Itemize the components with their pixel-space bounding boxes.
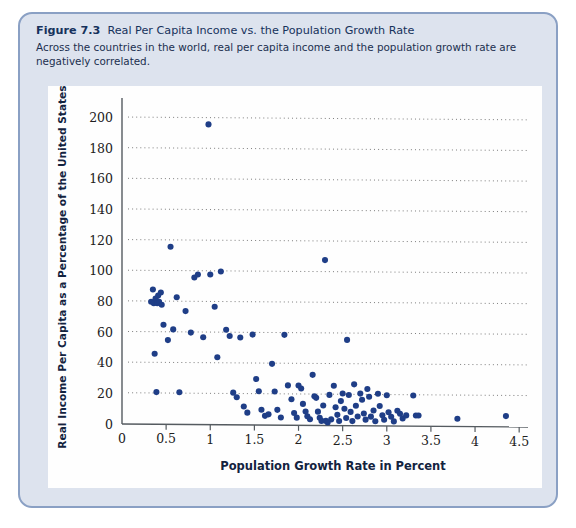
scatter-point <box>377 403 383 409</box>
scatter-point <box>357 391 363 397</box>
scatter-point <box>274 407 280 413</box>
scatter-point <box>288 396 294 402</box>
scatter-point <box>370 407 376 413</box>
scatter-point <box>258 407 264 413</box>
x-tick-label: 0.5 <box>156 431 176 446</box>
x-axis-title: Population Growth Rate in Percent <box>220 459 446 473</box>
x-tick-label: 4.5 <box>509 434 529 449</box>
y-axis-title: Real Income Per Capita as a Percentage o… <box>56 86 68 449</box>
x-tick-label: 4 <box>471 434 479 449</box>
y-tick-label: 180 <box>89 141 113 156</box>
scatter-point <box>153 389 159 395</box>
scatter-point <box>403 412 409 418</box>
scatter-point <box>503 413 509 419</box>
figure-number: Figure 7.3 <box>36 24 100 37</box>
scatter-point <box>281 332 287 338</box>
scatter-point <box>167 244 173 250</box>
scatter-point <box>343 415 349 421</box>
gridlines <box>128 117 528 396</box>
scatter-point <box>176 389 182 395</box>
scatter-point <box>188 330 194 336</box>
plot-panel: 020406080100120140160180200 00.511.522.5… <box>48 86 542 488</box>
scatter-point <box>310 372 316 378</box>
scatter-point <box>214 354 220 360</box>
y-tick-label: 140 <box>89 202 113 217</box>
scatter-point <box>336 418 342 424</box>
scatter-point <box>165 337 171 343</box>
scatter-point <box>278 414 284 420</box>
scatter-point <box>223 327 229 333</box>
scatter-point <box>333 404 339 410</box>
y-tick-label: 120 <box>89 233 113 248</box>
scatter-point <box>158 290 164 296</box>
scatter-point <box>375 391 381 397</box>
scatter-point <box>364 386 370 392</box>
scatter-point <box>152 351 158 357</box>
x-axis-ticks: 00.511.522.533.544.5 <box>118 424 529 449</box>
figure-title: Real Per Capita Income vs. the Populatio… <box>107 24 414 37</box>
scatter-point <box>340 390 346 396</box>
scatter-point <box>212 304 218 310</box>
scatter-point <box>269 361 275 367</box>
scatter-point <box>366 394 372 400</box>
scatter-point <box>237 335 243 341</box>
x-tick-label: 2.5 <box>333 433 353 448</box>
x-tick-label: 2 <box>295 432 303 447</box>
scatter-point <box>381 417 387 423</box>
scatter-point <box>285 382 291 388</box>
scatter-point <box>416 412 422 418</box>
figure-card: Figure 7.3 Real Per Capita Income vs. th… <box>18 12 558 508</box>
scatter-point <box>372 418 378 424</box>
scatter-point <box>205 121 211 127</box>
scatter-point <box>182 308 188 314</box>
scatter-point <box>331 383 337 389</box>
figure-title-line: Figure 7.3 Real Per Capita Income vs. th… <box>36 24 542 38</box>
scatter-point <box>272 388 278 394</box>
scatter-point <box>313 395 319 401</box>
scatter-point <box>307 416 313 422</box>
scatter-point <box>355 414 361 420</box>
scatter-point <box>207 271 213 277</box>
scatter-point <box>300 401 306 407</box>
scatter-point <box>234 394 240 400</box>
y-tick-label: 60 <box>97 325 113 340</box>
scatter-point <box>384 392 390 398</box>
y-tick-label: 0 <box>105 417 113 432</box>
scatter-point <box>253 376 259 382</box>
scatter-point <box>334 412 340 418</box>
scatter-point <box>338 398 344 404</box>
scatter-point <box>244 410 250 416</box>
x-axis-line <box>122 424 528 427</box>
scatter-point <box>346 392 352 398</box>
y-tick-label: 40 <box>97 355 113 370</box>
y-tick-label: 160 <box>89 171 113 186</box>
scatter-point <box>315 409 321 415</box>
scatter-point <box>363 417 369 423</box>
y-tick-label: 80 <box>97 294 113 309</box>
scatter-point <box>256 388 262 394</box>
scatter-point <box>454 416 460 422</box>
scatter-point <box>326 392 332 398</box>
scatter-point <box>150 286 156 292</box>
scatter-point <box>320 403 326 409</box>
x-tick-label: 3 <box>383 433 391 448</box>
x-tick-label: 1.5 <box>244 432 264 447</box>
scatter-point <box>159 302 165 308</box>
scatter-point <box>250 332 256 338</box>
scatter-point <box>170 326 176 332</box>
scatter-point <box>227 333 233 339</box>
scatter-point <box>361 410 367 416</box>
scatter-point <box>328 416 334 422</box>
scatter-point <box>294 415 300 421</box>
x-tick-label: 3.5 <box>421 433 441 448</box>
scatter-point <box>241 403 247 409</box>
y-tick-label: 20 <box>97 386 113 401</box>
scatter-point <box>195 271 201 277</box>
scatter-point <box>218 269 224 275</box>
data-points <box>148 121 509 425</box>
scatter-point <box>348 409 354 415</box>
scatter-point <box>341 406 347 412</box>
scatter-point <box>391 418 397 424</box>
scatter-point <box>351 381 357 387</box>
scatter-point <box>298 386 304 392</box>
